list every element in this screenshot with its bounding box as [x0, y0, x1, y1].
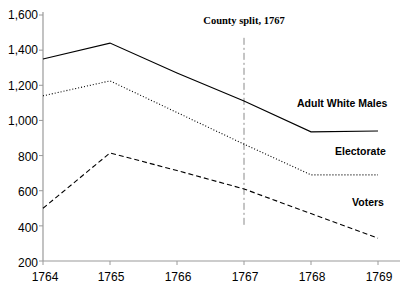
ytick-label: 1,000: [0, 114, 38, 128]
xtick-label-1769: 1769: [356, 270, 402, 284]
ytick-label: 1,600: [0, 8, 38, 22]
series-label-electorate: Electorate: [335, 145, 386, 157]
ytick-label: 600: [0, 185, 38, 199]
xtick-label-1764: 1764: [22, 270, 68, 284]
ytick-label: 400: [0, 221, 38, 235]
chart-container: 1,600 1,400 1,200 1,000 800 600 400 200 …: [0, 0, 405, 293]
series-line-electorate: [43, 81, 378, 175]
annotation-county-split: County split, 1767: [189, 15, 299, 26]
series-line-adult-white-males: [43, 43, 378, 132]
series-label-voters: Voters: [352, 196, 384, 208]
xtick-label-1767: 1767: [222, 270, 268, 284]
series-line-voters: [43, 153, 378, 238]
series-label-adult-white-males: Adult White Males: [297, 97, 387, 109]
ytick-label: 200: [0, 256, 38, 270]
ytick-label: 1,200: [0, 79, 38, 93]
ytick-label: 1,400: [0, 43, 38, 57]
ytick-label: 800: [0, 150, 38, 164]
xtick-label-1765: 1765: [88, 270, 134, 284]
xtick-label-1768: 1768: [289, 270, 335, 284]
xtick-label-1766: 1766: [155, 270, 201, 284]
